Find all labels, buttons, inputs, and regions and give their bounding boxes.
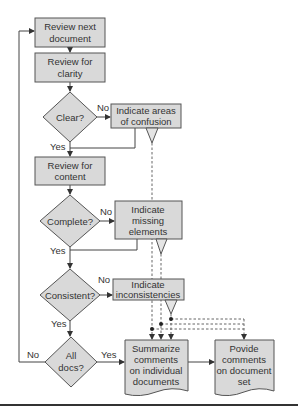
label-summarize-1: Summarize <box>132 343 180 354</box>
edge-label-complete-yes: Yes <box>50 245 66 256</box>
label-review-next-2: document <box>49 33 91 44</box>
edge-label-consistent-yes: Yes <box>51 318 67 329</box>
label-inconsistencies-2: inconsistencies <box>116 289 181 300</box>
tag-confusion-icon <box>146 128 158 143</box>
label-summarize-2: comments <box>134 354 178 365</box>
edge-label-complete-no: No <box>100 206 112 217</box>
tag-inconsistencies-icon <box>165 300 177 314</box>
label-all-docs-1: All <box>66 350 77 361</box>
label-provide-3: on document <box>217 365 272 376</box>
label-provide-2: comments <box>222 354 266 365</box>
label-provide-4: set <box>238 376 251 387</box>
edge-label-clear-no: No <box>97 102 109 113</box>
edge-label-consistent-no: No <box>98 274 110 285</box>
label-missing-2: missing <box>132 215 164 226</box>
label-confusion-2: of confusion <box>120 116 171 127</box>
label-summarize-4: documents <box>133 376 180 387</box>
label-consistent: Consistent? <box>45 290 95 301</box>
label-review-content-1: Review for <box>48 160 93 171</box>
label-confusion-1: Indicate areas <box>116 105 176 116</box>
label-summarize-3: on individual <box>130 365 183 376</box>
label-missing-1: Indicate <box>131 204 164 215</box>
edge-label-alldocs-yes: Yes <box>101 349 117 360</box>
edge-label-alldocs-no: No <box>27 349 39 360</box>
label-review-next-1: Review next <box>44 21 96 32</box>
label-missing-3: elements <box>129 226 168 237</box>
label-review-clarity-1: Review for <box>48 56 93 67</box>
label-all-docs-2: docs? <box>58 362 83 373</box>
label-clear: Clear? <box>56 112 84 123</box>
label-provide-1: Povide <box>229 343 258 354</box>
label-complete: Complete? <box>47 216 93 227</box>
flowchart: Review next document Review for clarity … <box>0 0 298 411</box>
line-missing-return <box>70 239 137 250</box>
tag-missing-icon <box>156 239 167 254</box>
edge-label-clear-yes: Yes <box>50 141 66 152</box>
label-review-content-2: content <box>54 171 86 182</box>
label-review-clarity-2: clarity <box>58 68 83 79</box>
